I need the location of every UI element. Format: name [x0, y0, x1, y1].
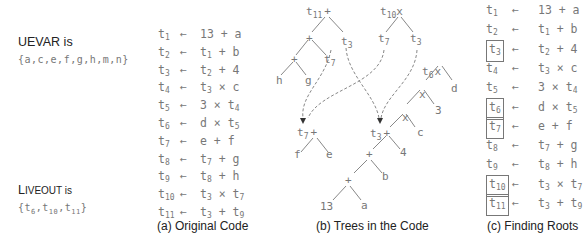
node-t7-f: f — [294, 148, 301, 161]
node-t11-t3: t3 — [341, 35, 353, 50]
node-t11-t7: t7 — [324, 53, 336, 68]
assign-arrow: ← — [512, 135, 519, 155]
assign-arrow: ← — [512, 193, 519, 213]
node-t7-e: e — [326, 148, 333, 161]
node-t10-t3: t3 — [410, 32, 422, 47]
node-t3-a: a — [361, 199, 368, 212]
node-t3-b: b — [382, 170, 389, 183]
node-t6-d: d — [451, 82, 458, 95]
assign-arrow: ← — [512, 58, 519, 78]
code-rhs: 13 + a — [538, 0, 580, 20]
caption-finding-roots: (c) Finding Roots — [487, 219, 578, 233]
node-t3-plus: + — [366, 148, 373, 161]
code-lhs: t11 — [486, 193, 509, 216]
node-t6-x1: x — [419, 88, 426, 101]
code-rhs: t3 + t9 — [538, 193, 582, 217]
node-t11-plus1: + — [306, 32, 313, 45]
node-t11-h: h — [276, 74, 283, 87]
node-t11-plus2: + — [291, 53, 298, 66]
assign-arrow: ← — [512, 39, 519, 59]
assign-arrow: ← — [512, 77, 519, 97]
node-t6-x2: x — [402, 111, 409, 124]
assign-arrow: ← — [512, 174, 519, 194]
node-t10-t7: t7 — [378, 32, 390, 47]
node-t6-root: t6x — [422, 65, 441, 80]
node-t7-root: t7+ — [297, 126, 317, 141]
node-t6-3: 3 — [435, 104, 442, 117]
assign-arrow: ← — [512, 0, 519, 20]
assign-arrow: ← — [512, 154, 519, 174]
node-t3-plus2: + — [345, 174, 352, 187]
node-t10-root: t10x — [380, 5, 403, 20]
root-box: t11 — [486, 194, 509, 216]
assign-arrow: ← — [512, 97, 519, 117]
assign-arrow: ← — [512, 19, 519, 39]
caption-trees: (b) Trees in the Code — [316, 219, 429, 233]
code-rhs: e + f — [538, 116, 573, 136]
node-t3-13: 13 — [320, 200, 333, 213]
node-t11-root: t11+ — [306, 5, 331, 20]
assign-arrow: ← — [512, 116, 519, 136]
node-t3-root: t3+ — [370, 127, 390, 142]
node-t11-g: g — [305, 74, 312, 87]
node-t6-c: c — [417, 126, 424, 139]
node-t3-4: 4 — [400, 146, 407, 159]
